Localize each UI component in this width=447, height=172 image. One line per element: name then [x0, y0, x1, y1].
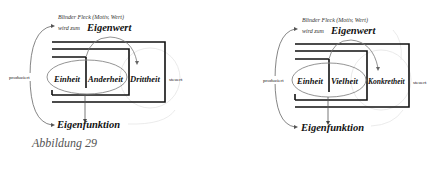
diagram-right-graphic: Blinder Fleck (Motiv, Wert) wird zum Eig… — [223, 0, 447, 140]
produces-arrowhead-bottom — [294, 125, 298, 129]
term-second: Anderheit — [87, 74, 124, 84]
term-einheit: Einheit — [53, 74, 81, 84]
curved-arrowhead — [376, 67, 380, 71]
term-third: Konkretheit — [367, 77, 406, 86]
term-second: Vielheit — [331, 76, 359, 86]
eigenfunktion-label: Eigenfunktion — [300, 122, 364, 133]
becomes-label: wird zum — [58, 25, 81, 31]
produces-arrowhead-top — [51, 24, 55, 28]
produces-label: produziert — [263, 78, 284, 83]
curved-arrowhead — [135, 61, 139, 65]
term-third: Drittheit — [129, 74, 160, 84]
becomes-label: wird zum — [302, 28, 325, 34]
diagram-left: Blinder Fleck (Motiv, Wert) wird zum Eig… — [0, 0, 224, 140]
controls-label: steuert — [169, 77, 183, 82]
faint-arrow — [128, 110, 175, 124]
eigenwert-label: Eigenwert — [86, 22, 132, 33]
controls-label: steuert — [413, 80, 427, 85]
figure-caption: Abbildung 29 — [32, 136, 97, 151]
diagram-left-graphic: Blinder Fleck (Motiv, Wert) wird zum Eig… — [0, 0, 224, 140]
eigenfunktion-label: Eigenfunktion — [56, 119, 120, 130]
term-einheit: Einheit — [296, 76, 324, 86]
produces-arrowhead-bottom — [51, 123, 55, 127]
produces-arrowhead-top — [294, 27, 298, 31]
produces-label: produziert — [9, 75, 30, 80]
outer-frame — [52, 42, 165, 102]
blind-spot-label: Blinder Fleck (Motiv, Wert) — [302, 17, 368, 24]
diagram-right: Blinder Fleck (Motiv, Wert) wird zum Eig… — [223, 0, 447, 140]
blind-spot-label: Blinder Fleck (Motiv, Wert) — [58, 14, 124, 21]
faint-arrow-top — [393, 30, 401, 60]
faint-arrow — [371, 110, 403, 126]
eigenwert-label: Eigenwert — [330, 25, 376, 36]
